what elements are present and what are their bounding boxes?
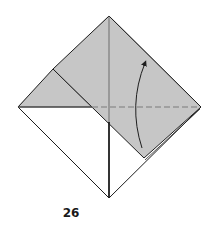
step-number: 26 [60, 206, 82, 220]
origami-diagram [0, 0, 222, 227]
